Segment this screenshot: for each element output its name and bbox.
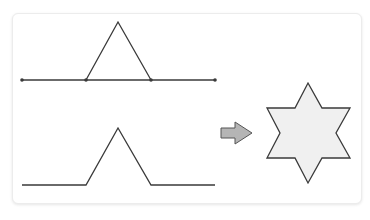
right-arrow-icon — [221, 122, 252, 144]
division-point — [20, 78, 24, 82]
division-point — [84, 78, 88, 82]
star-shape — [267, 83, 350, 183]
top-figure-divided-segment — [20, 22, 217, 82]
bottom-figure-koch-curve — [22, 128, 215, 185]
division-point — [213, 78, 217, 82]
division-point — [149, 78, 153, 82]
triangle-bump — [86, 22, 151, 80]
six-pointed-star — [267, 83, 350, 183]
koch-diagram — [0, 0, 370, 220]
arrow-shape — [221, 122, 252, 144]
koch-curve-path — [22, 128, 215, 185]
